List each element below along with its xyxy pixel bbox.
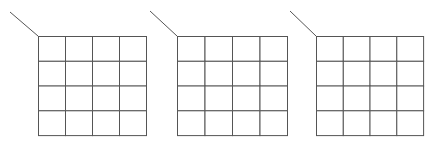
grid-cell: [233, 37, 261, 62]
diagram-canvas: [0, 0, 438, 144]
grid-cell: [317, 86, 344, 111]
grid-1: [10, 12, 147, 136]
grid-cell: [397, 111, 424, 136]
grid-cell: [370, 111, 397, 136]
leader-line: [290, 11, 316, 36]
grid-cell: [317, 111, 344, 136]
grid-diagram: [0, 0, 438, 144]
grid-cell: [260, 61, 288, 86]
grid-cell: [317, 37, 344, 62]
grid-cell: [343, 37, 370, 62]
grid-cell: [120, 111, 147, 136]
grid-cell: [397, 61, 424, 86]
leader-line: [150, 11, 177, 36]
grid-cell: [39, 111, 66, 136]
grid-cell: [178, 111, 206, 136]
grid-cell: [205, 111, 233, 136]
grid-cell: [343, 86, 370, 111]
grid-cell: [178, 37, 206, 62]
grid-cell: [120, 61, 147, 86]
grid-cell: [205, 37, 233, 62]
grid-cell: [370, 61, 397, 86]
grid-cell: [39, 37, 66, 62]
grid-cell: [93, 61, 120, 86]
grid-cell: [233, 111, 261, 136]
grid-cell: [260, 111, 288, 136]
grid-cell: [66, 61, 93, 86]
grid-cell: [343, 111, 370, 136]
grid-cell: [66, 111, 93, 136]
grid-cell: [260, 86, 288, 111]
grid-cell: [66, 37, 93, 62]
grid-cell: [39, 61, 66, 86]
grid-cell: [93, 37, 120, 62]
grid-cell: [205, 61, 233, 86]
grid-2: [150, 11, 288, 136]
grid-cell: [370, 86, 397, 111]
grid-cell: [397, 86, 424, 111]
grid-cell: [120, 86, 147, 111]
grid-cell: [178, 86, 206, 111]
grid-cell: [370, 37, 397, 62]
grid-cell: [233, 86, 261, 111]
grid-cell: [397, 37, 424, 62]
grid-3: [290, 11, 424, 136]
grid-cell: [178, 61, 206, 86]
grid-cell: [93, 86, 120, 111]
grid-cell: [233, 61, 261, 86]
grid-cell: [343, 61, 370, 86]
grid-cell: [66, 86, 93, 111]
grid-cell: [93, 111, 120, 136]
leader-line: [10, 12, 38, 36]
grid-cell: [120, 37, 147, 62]
grid-cell: [39, 86, 66, 111]
grid-cell: [260, 37, 288, 62]
grid-cell: [205, 86, 233, 111]
grid-cell: [317, 61, 344, 86]
